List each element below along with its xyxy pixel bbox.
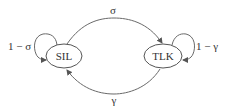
- node-label-tlk: TLK: [152, 50, 173, 62]
- node-tlk: TLK: [144, 44, 182, 68]
- edge-label-sigma: σ: [110, 4, 116, 16]
- edge-label-one-minus-gamma: 1 − γ: [196, 40, 218, 52]
- edge-label-one-minus-sigma: 1 − σ: [8, 40, 31, 52]
- node-sil: SIL: [46, 44, 82, 68]
- edge-label-gamma: γ: [111, 94, 117, 106]
- state-diagram: σ γ 1 − σ 1 − γ SIL TLK: [0, 0, 228, 109]
- edge-sil-to-tlk: [67, 18, 162, 44]
- node-label-sil: SIL: [56, 50, 73, 62]
- edge-tlk-to-sil: [67, 69, 160, 94]
